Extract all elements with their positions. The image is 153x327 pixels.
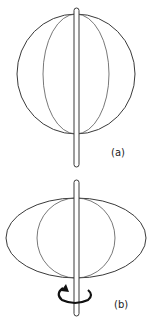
panel-label-b: (b) [114, 300, 128, 310]
panel-b [6, 180, 146, 316]
diagram-figure: (a) (b) [0, 0, 153, 327]
panel-label-a: (a) [111, 148, 125, 158]
diagram-canvas [0, 0, 153, 327]
panel-a [17, 8, 135, 167]
rod-b [74, 180, 79, 316]
rod-a [74, 8, 79, 167]
